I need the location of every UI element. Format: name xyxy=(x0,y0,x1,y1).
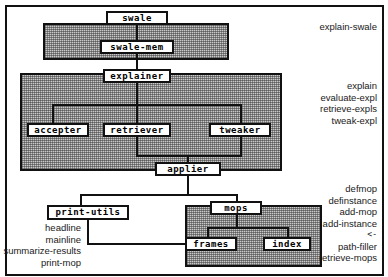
annotation-path-filler: path-filler xyxy=(247,241,377,253)
annotation-explain: explain xyxy=(247,80,377,92)
connector-retriever-down xyxy=(136,136,138,156)
annotation-evaluate-expl: evaluate-expl xyxy=(247,92,377,104)
node-explainer[interactable]: explainer xyxy=(103,69,171,83)
annotation-explain-swale: explain-swale xyxy=(247,21,377,33)
node-retriever[interactable]: retriever xyxy=(103,123,171,137)
connector-mops-stem xyxy=(236,214,238,228)
annotation-tweak-expl: tweak-expl xyxy=(247,115,377,127)
connector-explainer-bus xyxy=(52,104,242,106)
swale-annotations: explain-swale xyxy=(247,21,377,33)
connector-explainer-stem xyxy=(136,82,138,105)
connector-bus-to-retriever xyxy=(136,104,138,124)
connector-tweaker-down xyxy=(240,136,242,156)
print-utils-annotations: headline mainline summarize-results prin… xyxy=(0,222,81,268)
node-print-utils[interactable]: print-utils xyxy=(47,205,129,220)
annotation-defmop: defmop xyxy=(247,183,377,195)
connector-lower-bus xyxy=(80,194,238,196)
connector-swale-to-swale-mem xyxy=(136,24,138,41)
annotation-arrow-glyph: <- xyxy=(247,229,377,241)
annotation-summarize-results: summarize-results xyxy=(0,245,81,257)
annotation-retrieve-expls: retrieve-expls xyxy=(247,103,377,115)
node-swale-mem[interactable]: swale-mem xyxy=(100,40,174,54)
node-accepter[interactable]: accepter xyxy=(27,123,89,137)
annotation-headline: headline xyxy=(0,222,81,234)
diagram-outer-frame: swale swale-mem explain-swale explainer … xyxy=(5,5,384,276)
explainer-annotations: explain evaluate-expl retrieve-expls twe… xyxy=(247,80,377,126)
annotation-retrieve-mops: retrieve-mops xyxy=(247,252,377,264)
connector-applier-down xyxy=(187,175,189,195)
diagram-figure: swale swale-mem explain-swale explainer … xyxy=(0,0,388,277)
annotation-mainline: mainline xyxy=(0,234,81,246)
annotation-definstance: definstance xyxy=(247,195,377,207)
annotation-add-instance: add-instance xyxy=(247,218,377,230)
annotation-print-mop: print-mop xyxy=(0,257,81,269)
connector-bus-to-tweaker xyxy=(240,104,242,124)
node-frames[interactable]: frames xyxy=(185,237,237,251)
mops-annotations: defmop definstance add-mop add-instance … xyxy=(247,183,377,264)
node-swale[interactable]: swale xyxy=(106,11,168,25)
node-applier[interactable]: applier xyxy=(155,162,221,176)
connector-print-utils-down xyxy=(87,219,89,244)
connector-print-utils-to-mops xyxy=(87,243,190,245)
connector-applier-bus xyxy=(136,155,242,157)
annotation-add-mop: add-mop xyxy=(247,206,377,218)
connector-bus-to-accepter xyxy=(52,104,54,124)
